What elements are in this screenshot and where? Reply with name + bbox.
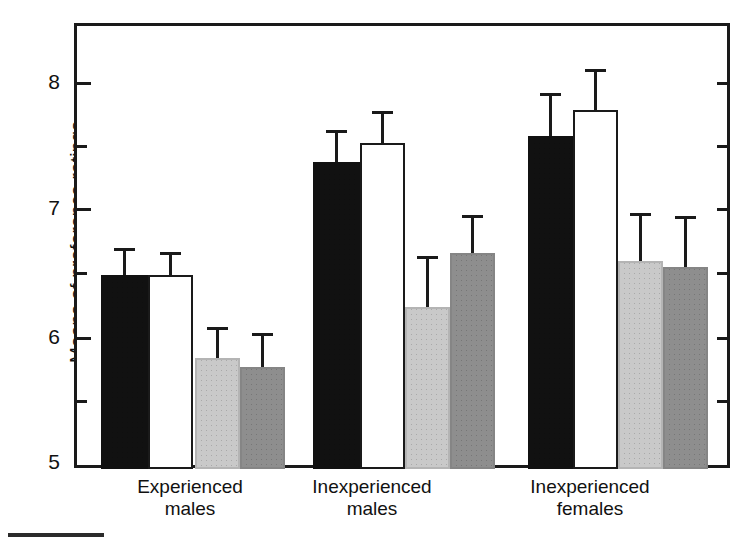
y-tick-8 [74, 82, 91, 85]
bar-group1-series3 [195, 358, 240, 469]
errorbar-group3-series2 [594, 69, 597, 110]
errorcap-group3-series2 [585, 69, 606, 72]
bar-group1-series1 [101, 275, 148, 469]
x-category-label-3: Inexperienced females [480, 476, 700, 520]
y-tick-right-5-5 [717, 400, 730, 403]
bar-group2-series3 [405, 307, 450, 469]
errorbar-group2-series2 [381, 111, 384, 143]
errorbar-group2-series1 [335, 130, 338, 162]
x-category-label-2-line1: Inexperienced [262, 476, 482, 498]
x-category-label-1-line1: Experienced [95, 476, 285, 498]
y-tick-right-8 [717, 82, 730, 85]
y-tick-label-7: 7 [20, 197, 60, 218]
x-category-label-3-line2: females [480, 498, 700, 520]
y-tick-7-5 [74, 145, 87, 148]
errorcap-group1-series3 [207, 327, 228, 330]
bar-group3-series4 [663, 267, 708, 469]
errorcap-group3-series4 [675, 216, 696, 219]
x-category-label-2-line2: males [262, 498, 482, 520]
errorbar-group3-series1 [549, 93, 552, 136]
y-tick-6 [74, 337, 91, 340]
x-category-label-1-line2: males [95, 498, 285, 520]
errorcap-group2-series2 [372, 111, 393, 114]
errorbar-group3-series3 [639, 213, 642, 261]
y-tick-right-7-5 [717, 145, 730, 148]
y-tick-6-5 [74, 272, 87, 275]
bar-group2-series1 [313, 162, 360, 469]
bar-group1-series2 [148, 275, 193, 469]
errorbar-group3-series4 [684, 216, 687, 267]
bar-group3-series2 [573, 110, 618, 469]
x-category-label-3-line1: Inexperienced [480, 476, 700, 498]
errorbar-group1-series3 [216, 327, 219, 358]
errorcap-group2-series3 [417, 256, 438, 259]
y-tick-label-8: 8 [20, 71, 60, 92]
errorcap-group2-series1 [326, 130, 347, 133]
errorbar-group1-series2 [169, 252, 172, 275]
page-rule [8, 533, 104, 537]
bar-group3-series3 [618, 261, 663, 469]
errorbar-group2-series3 [426, 256, 429, 307]
errorcap-group3-series1 [540, 93, 561, 96]
x-category-label-2: Inexperienced males [262, 476, 482, 520]
plot-area [74, 23, 730, 468]
bar-group2-series4 [450, 253, 495, 469]
y-tick-right-7 [717, 208, 730, 211]
errorbar-group1-series1 [123, 248, 126, 275]
errorbar-group1-series4 [261, 333, 264, 367]
y-tick-label-5: 5 [20, 451, 60, 472]
bar-group1-series4 [240, 367, 285, 469]
x-category-label-1: Experienced males [95, 476, 285, 520]
errorcap-group2-series4 [462, 215, 483, 218]
errorcap-group3-series3 [630, 213, 651, 216]
y-tick-right-6 [717, 337, 730, 340]
y-tick-7 [74, 208, 91, 211]
y-tick-label-6: 6 [20, 326, 60, 347]
bar-group2-series2 [360, 143, 405, 469]
errorbar-group2-series4 [471, 215, 474, 253]
y-tick-right-6-5 [717, 272, 730, 275]
y-tick-5-5 [74, 400, 87, 403]
errorcap-group1-series2 [160, 252, 181, 255]
errorcap-group1-series1 [114, 248, 135, 251]
errorcap-group1-series4 [252, 333, 273, 336]
bar-chart-figure: Means of preference ratings 8 7 6 5 [0, 0, 756, 540]
bar-group3-series1 [528, 136, 573, 469]
